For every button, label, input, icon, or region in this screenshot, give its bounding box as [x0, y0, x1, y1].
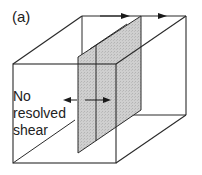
annotation-text: No resolved shear — [13, 88, 66, 139]
annotation-line: resolved — [13, 105, 66, 122]
shear-diagram: (a) No resolved shear — [0, 0, 202, 175]
annotation-line: No — [13, 88, 66, 105]
bottom-right-diagonal — [116, 115, 186, 163]
arrow-left-icon — [121, 13, 130, 19]
shear-plane — [78, 16, 141, 153]
annotation-line: shear — [13, 122, 66, 139]
panel-label: (a) — [12, 8, 30, 25]
arrow-right-icon — [158, 13, 167, 19]
